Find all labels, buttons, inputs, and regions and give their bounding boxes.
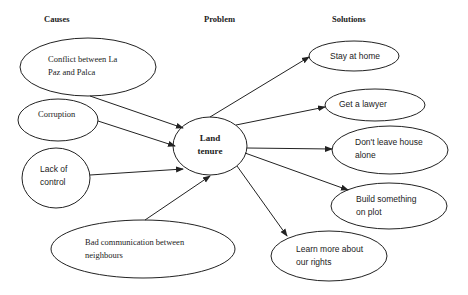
arrow-problem-to-stay xyxy=(210,57,309,117)
solution-label-learn: Learn more about our rights xyxy=(296,243,363,269)
header-solutions: Solutions xyxy=(332,14,366,24)
cause-label-conflict: Conflict between La Paz and Palca xyxy=(48,53,117,79)
header-causes: Causes xyxy=(44,14,70,24)
arrow-problem-to-dont-leave xyxy=(247,148,332,149)
header-problem: Problem xyxy=(204,14,235,24)
arrow-lack-to-problem xyxy=(90,169,183,175)
solution-label-dont-leave: Don't leave house alone xyxy=(355,136,423,162)
cause-label-bad-communication: Bad communication between neighbours xyxy=(85,236,184,262)
arrow-problem-to-lawyer xyxy=(236,107,325,125)
problem-label: Land tenure xyxy=(180,132,240,158)
cause-label-corruption: Corruption xyxy=(38,108,75,121)
arrow-problem-to-learn xyxy=(237,166,287,236)
arrow-communication-to-problem xyxy=(145,176,210,220)
arrow-problem-to-build xyxy=(245,153,348,190)
solution-label-stay-at-home: Stay at home xyxy=(330,50,380,63)
arrow-corruption-to-problem xyxy=(98,121,175,146)
solution-label-build: Build something on plot xyxy=(356,193,416,219)
solution-label-get-lawyer: Get a lawyer xyxy=(339,98,387,111)
cause-label-lack-of-control: Lack of control xyxy=(40,163,67,189)
